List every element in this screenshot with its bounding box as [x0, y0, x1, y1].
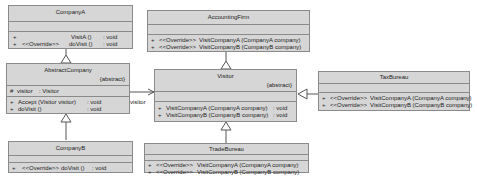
class-name: TradeBureau	[145, 144, 308, 153]
methods-section: + <<Override>> doVisit () : void	[9, 163, 132, 172]
class-companyA[interactable]: CompanyA + VisitA () : void + <<Override…	[8, 5, 133, 49]
method-row: + <<Override>> VisitCompanyA (CompanyA c…	[145, 162, 308, 169]
attribute-row: # visitor : Visitor	[7, 88, 129, 95]
association-role-label: visitor	[130, 99, 146, 105]
attributes-section: # visitor : Visitor	[7, 86, 129, 97]
class-name: AccountingFirm	[148, 11, 309, 21]
methods-section: + VisitCompanyA (CompanyA company) : voi…	[155, 102, 296, 119]
method-row: + Accept (Visitor visitor) : void	[7, 99, 129, 106]
method-row: + doVisit () : void	[7, 106, 129, 113]
method-row: + <<Override>> VisitCompanyA (CompanyA c…	[148, 37, 309, 44]
abstract-modifier: {abstract}	[267, 82, 292, 89]
generalization-arrow-icon	[221, 122, 231, 130]
method-row: + VisitCompanyB (CompanyB company) : voi…	[155, 112, 296, 119]
method-row: + <<Override>> doVisit () : void	[9, 165, 132, 172]
methods-section: + <<Override>> VisitCompanyA (CompanyA c…	[148, 35, 309, 51]
attributes-section	[155, 92, 296, 102]
method-row: + <<Override>> VisitCompanyB (CompanyB c…	[148, 44, 309, 51]
class-abstractCompany[interactable]: AbstractCompany {abstract} # visitor : V…	[6, 63, 130, 114]
attributes-section	[319, 84, 469, 93]
generalization-arrow-icon	[221, 61, 231, 69]
class-visitor[interactable]: Visitor {abstract} + VisitCompanyA (Comp…	[154, 69, 297, 122]
method-row: + <<Override>> doVisit () : void	[9, 41, 132, 48]
attributes-section	[148, 25, 309, 35]
class-taxBureau[interactable]: TaxBureau + <<Override>> VisitCompanyA (…	[318, 71, 470, 111]
class-companyB[interactable]: CompanyB + <<Override>> doVisit () : voi…	[8, 141, 133, 173]
methods-section: + <<Override>> VisitCompanyA (CompanyA c…	[145, 161, 308, 176]
class-accountingFirm[interactable]: AccountingFirm + <<Override>> VisitCompa…	[147, 10, 310, 52]
class-name: TaxBureau	[319, 72, 469, 81]
class-name: CompanyA	[9, 6, 132, 16]
method-row: + <<Override>> VisitCompanyB (CompanyB c…	[145, 169, 308, 176]
method-row: + <<Override>> VisitCompanyA (CompanyA c…	[319, 95, 469, 102]
attributes-section	[9, 156, 132, 163]
class-tradeBureau[interactable]: TradeBureau + <<Override>> VisitCompanyA…	[144, 143, 309, 173]
generalization-arrow-icon	[61, 55, 71, 63]
class-name: AbstractCompany	[7, 64, 129, 74]
class-name: CompanyB	[9, 142, 132, 152]
generalization-arrow-icon	[61, 114, 71, 122]
method-row: + VisitCompanyA (CompanyA company) : voi…	[155, 105, 296, 112]
methods-section: + Accept (Visitor visitor) : void + doVi…	[7, 97, 129, 113]
attributes-section	[9, 22, 132, 32]
methods-section: + VisitA () : void + <<Override>> doVisi…	[9, 32, 132, 48]
generalization-arrow-icon	[298, 89, 307, 99]
class-name: Visitor	[155, 70, 296, 80]
method-row: + <<Override>> VisitCompanyB (CompanyB c…	[319, 102, 469, 109]
methods-section: + <<Override>> VisitCompanyA (CompanyA c…	[319, 93, 469, 109]
method-row: + VisitA () : void	[9, 34, 132, 41]
abstract-modifier: {abstract}	[100, 76, 125, 83]
